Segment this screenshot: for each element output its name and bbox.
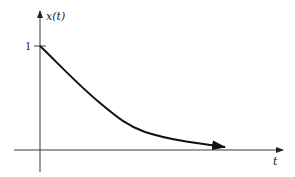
y-axis-label: x(t) (46, 10, 65, 23)
decay-curve (40, 46, 225, 147)
x-axis-label: t (273, 155, 277, 168)
y-tick-label-one: 1 (25, 39, 31, 54)
plot-canvas (0, 0, 295, 177)
